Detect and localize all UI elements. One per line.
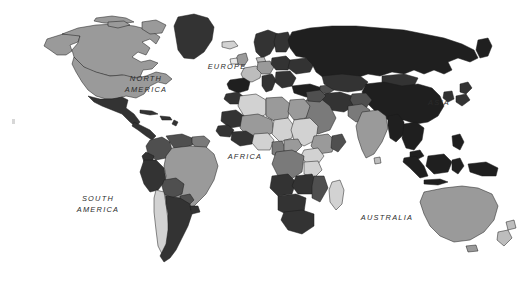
world-map: NORTH AMERICA SOUTH AMERICA EUROPE AFRIC…	[0, 0, 528, 293]
world-map-svg	[0, 0, 528, 293]
region-sri-lanka	[374, 157, 381, 164]
region-new-zealand-north	[506, 220, 516, 230]
image-artifact-speck	[12, 119, 15, 124]
region-tasmania	[466, 245, 478, 252]
region-ireland	[230, 58, 238, 64]
